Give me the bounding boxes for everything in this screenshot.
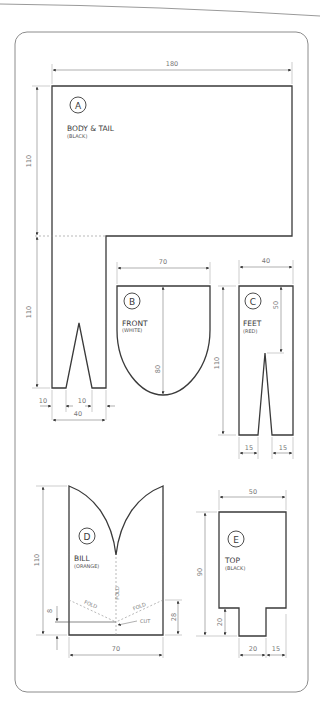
dim-d-cut: 8 (46, 609, 54, 613)
dim-e-height: 90 (196, 568, 204, 576)
piece-e-top: 50 90 20 20 15 E TOP (BLACK) (196, 488, 286, 658)
piece-b-color: (WHITE) (122, 327, 142, 333)
piece-c-feet: 40 50 15 15 C FEET (RED) (239, 257, 293, 459)
piece-c-name: FEET (243, 319, 262, 328)
dim-c-notch-depth: 50 (272, 301, 280, 309)
dim-a-leg-width: 40 (74, 410, 82, 418)
dim-b-height: 80 (154, 365, 162, 373)
piece-a-name: BODY & TAIL (67, 124, 115, 133)
dim-b-side: 110 (213, 357, 221, 369)
dim-e-tab-width: 20 (249, 645, 257, 653)
svg-text:A: A (75, 101, 82, 111)
dim-d-fold-height: 28 (170, 613, 178, 621)
dim-a-leg-notch: 10 (78, 397, 86, 405)
svg-text:E: E (233, 535, 239, 545)
dim-d-width: 70 (112, 645, 120, 653)
dim-c-width: 40 (262, 257, 270, 265)
pattern-diagram: 180 110 110 10 10 40 A BODY & TAIL (BLAC… (0, 0, 320, 713)
dim-a-width: 180 (166, 60, 178, 68)
piece-d-name: BILL (74, 554, 91, 563)
dim-d-height: 110 (33, 554, 41, 566)
piece-b-front: 70 80 110 B FRONT (WHITE) (117, 258, 236, 435)
piece-e-color: (BLACK) (225, 565, 245, 571)
dim-a-height-leg: 110 (25, 306, 33, 318)
page-edge (0, 4, 320, 16)
piece-d-bill: FOLD FOLD FOLD CUT 110 8 28 70 D BILL (O… (33, 486, 182, 658)
piece-c-color: (RED) (243, 328, 257, 334)
piece-d-color: (ORANGE) (74, 563, 99, 569)
dim-a-leg-left: 10 (39, 397, 47, 405)
piece-a-color: (BLACK) (67, 133, 87, 139)
dim-c-foot-left: 15 (245, 444, 253, 452)
dim-e-tab-offset: 15 (272, 645, 280, 653)
dim-a-height-top: 110 (25, 155, 33, 167)
svg-text:B: B (129, 297, 135, 307)
cut-label: CUT (140, 618, 151, 624)
piece-e-name: TOP (224, 556, 240, 565)
dim-e-tab-height: 20 (216, 618, 224, 626)
dim-e-width: 50 (249, 488, 257, 496)
dim-b-width: 70 (159, 258, 167, 266)
svg-text:C: C (250, 297, 256, 307)
svg-text:D: D (84, 532, 91, 542)
dim-c-foot-right: 15 (279, 444, 287, 452)
fold-label-vertical: FOLD (114, 586, 120, 600)
